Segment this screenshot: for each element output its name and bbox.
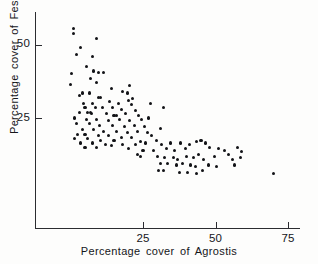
data-point	[76, 133, 79, 136]
data-point	[143, 125, 146, 128]
data-point	[231, 158, 234, 161]
data-point	[95, 37, 98, 40]
data-point	[111, 106, 114, 109]
data-point	[160, 143, 163, 146]
data-point	[95, 118, 98, 121]
data-point	[136, 130, 139, 133]
data-point	[120, 136, 123, 139]
data-point	[208, 146, 211, 149]
data-point	[75, 122, 78, 125]
data-point	[81, 128, 84, 131]
data-point	[121, 90, 124, 93]
data-point	[163, 156, 166, 159]
data-point	[110, 87, 113, 90]
data-point	[102, 71, 105, 74]
data-point	[137, 114, 140, 117]
data-point	[110, 144, 113, 147]
data-point	[140, 118, 143, 121]
data-point	[133, 124, 136, 127]
data-point	[108, 100, 111, 103]
data-point	[217, 147, 220, 150]
data-point	[85, 118, 88, 121]
data-point	[146, 131, 149, 134]
data-point	[121, 143, 124, 146]
data-point	[79, 141, 82, 144]
data-point	[139, 155, 142, 158]
data-point	[81, 91, 84, 94]
data-point	[227, 153, 230, 156]
data-point	[204, 141, 207, 144]
data-point	[272, 172, 275, 175]
data-point	[201, 169, 204, 172]
data-point	[202, 158, 205, 161]
data-point	[130, 136, 133, 139]
data-point	[139, 140, 142, 143]
data-point	[98, 124, 101, 127]
data-point	[94, 106, 97, 109]
data-point	[69, 83, 72, 86]
data-point	[72, 27, 75, 30]
data-point	[184, 147, 187, 150]
data-point	[70, 72, 73, 75]
data-point	[166, 162, 169, 165]
data-point	[141, 149, 144, 152]
data-point	[83, 146, 86, 149]
data-point	[118, 118, 121, 121]
data-point	[194, 165, 197, 168]
scatter-plot-figure: 2550255075 Percentage cover of Festuca P…	[0, 0, 318, 264]
data-point	[175, 163, 178, 166]
data-point	[195, 172, 198, 175]
data-point	[223, 149, 226, 152]
data-point	[115, 130, 118, 133]
data-point	[192, 156, 195, 159]
data-point	[130, 103, 133, 106]
data-point	[149, 102, 152, 105]
data-point	[99, 139, 102, 142]
data-point	[147, 116, 150, 119]
data-point	[105, 112, 108, 115]
data-point	[78, 111, 81, 114]
data-point	[85, 65, 88, 68]
data-point	[107, 119, 110, 122]
y-axis-title: Percentage cover of Festuca	[8, 0, 20, 156]
data-point	[101, 106, 104, 109]
data-point	[213, 155, 216, 158]
data-point	[144, 141, 147, 144]
data-point	[189, 163, 192, 166]
data-point	[99, 96, 102, 99]
data-point	[157, 169, 160, 172]
data-point	[162, 169, 165, 172]
data-point	[188, 143, 191, 146]
data-point	[91, 102, 94, 105]
data-point	[82, 102, 85, 105]
data-point	[79, 46, 82, 49]
data-point	[197, 153, 200, 156]
data-point	[83, 106, 86, 109]
data-point	[92, 128, 95, 131]
data-point	[126, 131, 129, 134]
data-point	[104, 143, 107, 146]
data-point	[120, 108, 123, 111]
data-point	[89, 77, 92, 80]
data-point	[86, 137, 89, 140]
data-point	[165, 147, 168, 150]
data-point	[131, 97, 134, 100]
y-axis-title-container: Percentage cover of Festuca	[8, 0, 24, 156]
data-point	[102, 130, 105, 133]
data-point	[97, 134, 100, 137]
data-point	[176, 158, 179, 161]
data-point	[91, 55, 94, 58]
data-point	[150, 134, 153, 137]
data-point	[185, 155, 188, 158]
data-point	[134, 143, 137, 146]
data-point	[78, 94, 81, 97]
data-point	[88, 122, 91, 125]
data-point	[233, 163, 236, 166]
data-point	[115, 114, 118, 117]
data-point	[181, 162, 184, 165]
data-point	[178, 171, 181, 174]
data-point	[111, 124, 114, 127]
data-point	[73, 116, 76, 119]
data-point	[112, 139, 115, 142]
data-point	[159, 162, 162, 165]
